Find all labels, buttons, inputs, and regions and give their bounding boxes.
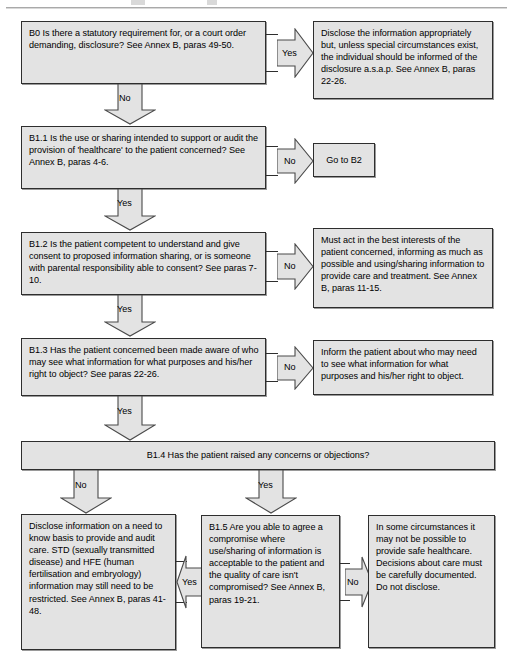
cropped-text-artifact-right <box>207 0 217 5</box>
edge-label-b1-2-yes: Yes <box>117 304 132 314</box>
node-b1-3-text: B1.3 Has the patient concerned been made… <box>29 344 259 380</box>
edge-label-b1-5-yes: Yes <box>182 577 197 587</box>
header-divider-rule <box>6 7 507 9</box>
edge-arrow-b1-3-yes <box>104 396 156 441</box>
flowchart-page: B0 Is there a statutory requirement for,… <box>0 0 513 667</box>
outcome-b0-yes-text: Disclose the information appropriately b… <box>321 27 486 87</box>
outcome-b1-1-no-text: Go to B2 <box>326 154 362 166</box>
outcome-b0-yes[interactable]: Disclose the information appropriately b… <box>313 21 493 99</box>
outcome-b1-5-no[interactable]: In some circumstances it may not be poss… <box>368 515 495 648</box>
edge-arrow-b0-no <box>104 84 156 125</box>
outcome-b1-3-no-text: Inform the patient about who may need to… <box>321 346 486 382</box>
node-b1-4[interactable]: B1.4 Has the patient raised any concerns… <box>21 441 495 470</box>
outcome-b1-4-no-text: Disclose information on a need to know b… <box>29 520 169 617</box>
edge-arrow-b1-4-yes <box>245 470 297 514</box>
outcome-b1-2-no-text: Must act in the best interests of the pa… <box>321 234 486 294</box>
edge-label-b1-5-no: No <box>347 577 359 587</box>
node-b1-4-text: B1.4 Has the patient raised any concerns… <box>147 449 370 461</box>
node-b1-5[interactable]: B1.5 Are you able to agree a compromise … <box>201 515 340 648</box>
edge-label-b1-1-yes: Yes <box>117 198 132 208</box>
edge-label-b0-yes: Yes <box>282 48 297 58</box>
node-b1-1[interactable]: B1.1 Is the use or sharing intended to s… <box>21 126 266 189</box>
node-b1-1-text: B1.1 Is the use or sharing intended to s… <box>29 132 259 168</box>
outcome-b1-1-no[interactable]: Go to B2 <box>313 143 375 177</box>
edge-label-b1-2-no: No <box>284 261 296 271</box>
edge-label-b1-4-no: No <box>75 480 87 490</box>
outcome-b1-4-no[interactable]: Disclose information on a need to know b… <box>21 514 176 650</box>
edge-arrow-b1-1-yes <box>104 189 156 231</box>
node-b0[interactable]: B0 Is there a statutory requirement for,… <box>21 21 266 84</box>
edge-label-b1-3-yes: Yes <box>117 406 132 416</box>
edge-label-b1-3-no: No <box>284 362 296 372</box>
edge-arrow-b1-4-no <box>60 470 112 514</box>
edge-label-b1-4-yes: Yes <box>258 480 273 490</box>
edge-label-b1-1-no: No <box>284 156 296 166</box>
outcome-b1-3-no[interactable]: Inform the patient about who may need to… <box>313 340 493 395</box>
edge-label-b0-no: No <box>119 93 131 103</box>
node-b1-3[interactable]: B1.3 Has the patient concerned been made… <box>21 338 266 396</box>
outcome-b1-2-no[interactable]: Must act in the best interests of the pa… <box>313 228 493 308</box>
node-b1-5-text: B1.5 Are you able to agree a compromise … <box>209 521 333 606</box>
node-b1-2[interactable]: B1.2 Is the patient competent to underst… <box>21 232 266 295</box>
edge-arrow-b1-2-yes <box>104 295 156 337</box>
node-b0-text: B0 Is there a statutory requirement for,… <box>29 27 259 51</box>
node-b1-2-text: B1.2 Is the patient competent to underst… <box>29 238 259 286</box>
cropped-text-artifact-left <box>131 0 145 5</box>
outcome-b1-5-no-text: In some circumstances it may not be poss… <box>376 521 488 594</box>
